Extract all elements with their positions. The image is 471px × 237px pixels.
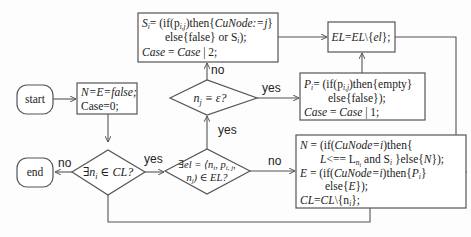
svg-text:N = (if(CuNode=i)then{: N = (if(CuNode=i)then{ [299,139,412,152]
label-nj-yes: yes [262,81,281,95]
svg-text:nj ≡ ε?: nj ≡ ε? [193,91,226,107]
end-terminal: end [17,158,53,187]
n-e-cl-update-box: N = (if(CuNode=i)then{ L<== Lni and Si }… [296,135,466,208]
init-line2: Case=0; [81,100,119,112]
svg-text:else{false} or Si);: else{false} or Si); [165,31,246,45]
svg-text:Case = Case | 1;: Case = Case | 1; [304,106,379,119]
el-remove-box: EL=EL\{el}; [328,22,395,52]
label-nj-no: no [211,63,225,77]
svg-text:N=E=false;: N=E=false; [80,86,137,99]
p-assignment-box: Pi= (if(pi,j)then{empty} else{false}); C… [300,73,425,120]
svg-text:EL=EL\{el};: EL=EL\{el}; [330,31,390,43]
s-assignment-box: Si= (if(pi,j)then{CuNode:=j} else{false}… [138,13,278,62]
svg-text:Pi= (if(pi,j)then{empty}: Pi= (if(pi,j)then{empty} [303,78,412,92]
svg-text:else{E});: else{E}); [325,180,368,193]
decision-exists-ni-in-cl: ∃ni ∈ CL? [72,150,145,195]
svg-text:else{false});: else{false}); [328,92,386,105]
init-line1: N=E=false; [80,86,137,99]
init-process-box: N=E=false; Case=0; [77,83,137,114]
start-terminal: start [17,85,53,114]
svg-text:Case=0;: Case=0; [81,100,119,112]
end-label: end [27,166,44,178]
svg-text:Si= (if(pi,j)then{CuNode:=j}: Si= (if(pi,j)then{CuNode:=j} [142,17,273,31]
svg-text:E = (if(CuNode=i)then{Pi}: E = (if(CuNode=i)then{Pi} [299,167,426,181]
label-cl-yes: yes [144,152,163,166]
label-cl-no: no [58,156,72,170]
svg-text:CL=CL\{ni};: CL=CL\{ni}; [300,194,360,208]
edge-labels: no yes yes no no yes [58,63,282,170]
start-label: start [25,93,46,105]
decision-exists-el-in-el: ∃el = ⟨ni, pi, j, nj) ∈ EL? [165,149,250,194]
flowchart-svg: start end N=E=false; Case=0; ∃ni ∈ CL? ∃… [0,0,471,237]
decision-nj-equiv-epsilon: nj ≡ ε? [170,80,257,115]
flowchart-canvas: start end N=E=false; Case=0; ∃ni ∈ CL? ∃… [0,0,471,237]
svg-text:∃ni ∈ CL?: ∃ni ∈ CL? [83,165,133,181]
svg-text:Case = Case | 2;: Case = Case | 2; [142,46,217,59]
label-el-yes: yes [218,123,237,137]
label-el-no: no [268,154,282,168]
